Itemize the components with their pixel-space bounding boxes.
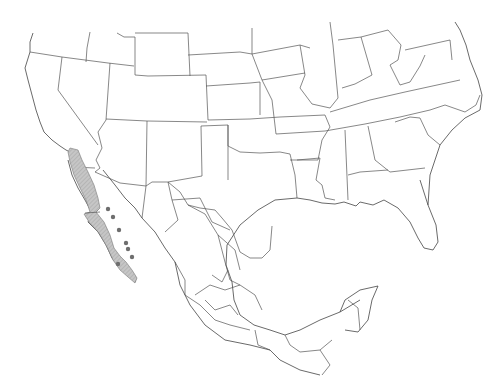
occurrence-point	[124, 241, 128, 245]
us-east-borders	[252, 22, 482, 205]
occurrence-point	[130, 255, 134, 259]
range-shading-baja	[68, 148, 137, 283]
us-state-borders	[25, 32, 297, 230]
pacific-coast	[25, 33, 70, 152]
map-canvas	[0, 0, 494, 392]
occurrence-point	[116, 262, 120, 266]
occurrence-point	[106, 207, 110, 211]
occurrence-point	[111, 215, 115, 219]
range-map	[0, 0, 494, 392]
baja-state-line	[85, 212, 100, 213]
mexico-borders	[68, 152, 378, 375]
occurrence-point	[126, 247, 130, 251]
gulf-coast-us	[226, 180, 438, 282]
occurrence-point	[117, 228, 121, 232]
